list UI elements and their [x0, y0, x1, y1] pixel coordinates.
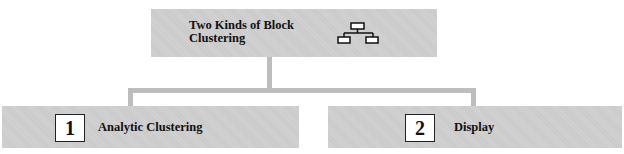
- child-label: Analytic Clustering: [98, 120, 203, 135]
- connector-root-down: [267, 57, 272, 92]
- connector-horizontal: [128, 88, 476, 93]
- child-number-badge: 2: [405, 114, 435, 142]
- child-label: Display: [454, 120, 494, 135]
- root-node: Two Kinds of Block Clustering: [151, 9, 437, 57]
- hierarchy-icon: [337, 22, 379, 46]
- connector-to-child-2: [471, 88, 476, 107]
- connector-to-child-1: [128, 88, 133, 107]
- child-node-analytic-clustering: 1 Analytic Clustering: [2, 106, 299, 148]
- child-node-display: 2 Display: [328, 106, 622, 148]
- child-number-badge: 1: [55, 114, 85, 142]
- root-title: Two Kinds of Block Clustering: [189, 19, 329, 45]
